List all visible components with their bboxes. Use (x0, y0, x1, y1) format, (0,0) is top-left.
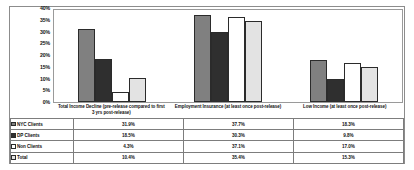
bar (327, 79, 344, 102)
legend-cell: NYC Clients (11, 119, 74, 130)
bar (211, 32, 228, 102)
bar (361, 67, 378, 102)
bar (228, 17, 245, 102)
bar-groups (54, 10, 402, 102)
table-row: NYC Clients31.9%37.7%18.3% (11, 119, 404, 130)
table-cell-value: 17.0% (294, 141, 404, 152)
table-cell-value: 37.7% (184, 119, 294, 130)
legend-swatch (11, 133, 16, 138)
y-axis-tick: 15% (10, 65, 50, 70)
data-table-body: NYC Clients31.9%37.7%18.3%DP Clients18.5… (11, 119, 404, 164)
table-cell-value: 35.4% (184, 152, 294, 163)
bar-group (170, 10, 286, 102)
table-cell-value: 10.4% (74, 152, 184, 163)
bar-group (286, 10, 402, 102)
bar (245, 21, 262, 102)
category-axis-labels: Total Income Decline (pre-release compar… (53, 104, 403, 119)
y-axis-tick: 25% (10, 42, 50, 47)
plot-area (53, 9, 403, 103)
bar (344, 63, 361, 102)
y-axis-tick: 35% (10, 18, 50, 23)
bar (310, 60, 327, 102)
y-axis-tick: 40% (10, 6, 50, 11)
y-axis-tick: 10% (10, 77, 50, 82)
category-label: Total Income Decline (pre-release compar… (53, 104, 170, 119)
y-axis-tick: 30% (10, 30, 50, 35)
y-axis-tick: 20% (10, 53, 50, 58)
legend-swatch (11, 144, 16, 149)
y-axis: 40%35%30%25%20%15%10%5%0% (10, 9, 53, 103)
category-label: Low Income (at least once post-release) (286, 104, 403, 119)
table-cell-value: 4.3% (74, 141, 184, 152)
table-cell-value: 31.9% (74, 119, 184, 130)
bar (129, 78, 146, 102)
y-axis-tick: 0% (10, 100, 50, 105)
table-cell-value: 15.3% (294, 152, 404, 163)
legend-swatch (11, 155, 16, 160)
series-name: DP Clients (17, 133, 39, 138)
bar (112, 92, 129, 102)
table-cell-value: 37.1% (184, 141, 294, 152)
data-table: NYC Clients31.9%37.7%18.3%DP Clients18.5… (10, 118, 404, 164)
legend-cell: Non Clients (11, 141, 74, 152)
legend-cell: DP Clients (11, 130, 74, 141)
table-row: Non Clients4.3%37.1%17.0% (11, 141, 404, 152)
table-row: DP Clients18.5%30.3%9.8% (11, 130, 404, 141)
category-label: Employment Insurance (at least once post… (170, 104, 287, 119)
table-cell-value: 18.5% (74, 130, 184, 141)
series-name: Total (17, 155, 27, 160)
table-cell-value: 9.8% (294, 130, 404, 141)
series-name: NYC Clients (17, 122, 43, 127)
chart-figure: 40%35%30%25%20%15%10%5%0% Total Income D… (9, 6, 405, 164)
y-axis-tick: 5% (10, 89, 50, 94)
bar-group (54, 10, 170, 102)
bar (78, 29, 95, 102)
bar (95, 59, 112, 102)
bar (194, 15, 211, 102)
legend-cell: Total (11, 152, 74, 163)
plot-area-wrapper: 40%35%30%25%20%15%10%5%0% Total Income D… (10, 9, 406, 119)
series-name: Non Clients (17, 144, 42, 149)
table-row: Total10.4%35.4%15.3% (11, 152, 404, 163)
legend-swatch (11, 122, 16, 127)
table-cell-value: 18.3% (294, 119, 404, 130)
table-cell-value: 30.3% (184, 130, 294, 141)
